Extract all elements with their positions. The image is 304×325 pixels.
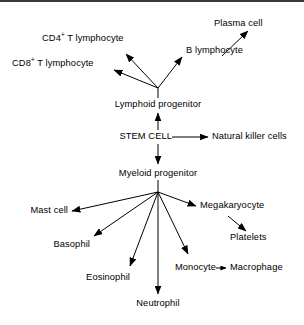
edge-myeloid-to-eosinophil [130,192,158,266]
node-platelets: Platelets [230,232,267,243]
edge-megakaryocyte-to-platelets [228,216,246,231]
edge-lymphoid-to-cd4 [126,54,158,88]
node-lymphoid-progenitor: Lymphoid progenitor [115,99,201,110]
node-megakaryocyte: Megakaryocyte [200,200,264,211]
node-b-lymphocyte: B lymphocyte [186,45,243,56]
node-cd8-t-lymphocyte: CD8+ T lymphocyte [12,58,94,69]
diagram-edges [0,0,304,325]
node-cd4-t-lymphocyte-prefix: CD4 [42,33,61,43]
node-eosinophil: Eosinophil [86,272,130,283]
node-myeloid-progenitor: Myeloid progenitor [119,168,197,179]
node-stem-cell: STEM CELL [119,131,172,142]
edge-lymphoid-to-b [158,57,182,88]
node-neutrophil: Neutrophil [136,298,179,309]
node-macrophage: Macrophage [230,262,283,273]
edge-myeloid-to-mastcell [72,192,158,211]
node-mast-cell: Mast cell [30,205,68,216]
node-cd8-t-lymphocyte-prefix: CD8 [12,58,31,68]
node-cd8-t-lymphocyte-suffix: T lymphocyte [35,58,94,68]
node-natural-killer-cells: Natural killer cells [212,131,287,142]
node-monocyte: Monocyte [175,262,216,273]
edge-lymphoid-to-cd8 [114,70,158,88]
hematopoiesis-diagram: Plasma cell CD4+ T lymphocyte B lymphocy… [0,0,304,325]
node-cd4-t-lymphocyte: CD4+ T lymphocyte [42,33,124,44]
node-cd4-t-lymphocyte-suffix: T lymphocyte [65,33,124,43]
node-basophil: Basophil [54,239,90,250]
node-plasma-cell: Plasma cell [214,18,263,29]
